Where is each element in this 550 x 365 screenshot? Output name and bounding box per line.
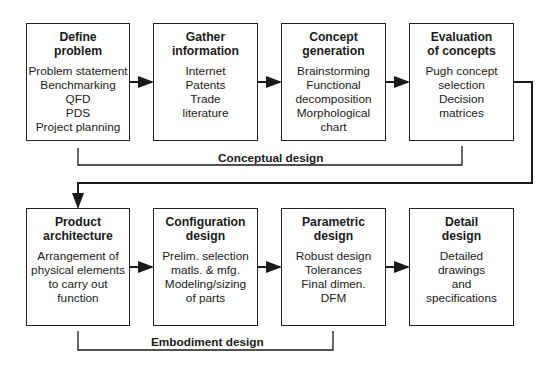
box-title: Detail xyxy=(410,215,513,229)
box-item: Functional xyxy=(282,78,385,92)
box-item: Modeling/sizing xyxy=(154,277,257,291)
gather-information-box: Gatherinformation Internet Patents Trade… xyxy=(153,23,258,141)
box-item: Brainstorming xyxy=(282,64,385,78)
box-item: drawings xyxy=(410,263,513,277)
box-title: Evaluation xyxy=(410,30,513,44)
box-title: design xyxy=(154,229,257,243)
box-title: Parametric xyxy=(282,215,385,229)
box-item: Prelim. selection xyxy=(154,249,257,263)
box-item: and xyxy=(410,277,513,291)
box-item: Pugh concept xyxy=(410,64,513,78)
box-item: literature xyxy=(154,106,257,120)
box-item: to carry out xyxy=(27,277,129,291)
box-item: physical elements xyxy=(27,263,129,277)
box-title: Gather xyxy=(154,30,257,44)
parametric-design-box: Parametricdesign Robust design Tolerance… xyxy=(281,208,386,326)
box-item: Patents xyxy=(154,78,257,92)
box-item: Arrangement of xyxy=(27,249,129,263)
define-problem-box: Defineproblem Problem statement Benchmar… xyxy=(26,23,130,141)
box-item: Trade xyxy=(154,92,257,106)
configuration-design-box: Configurationdesign Prelim. selection ma… xyxy=(153,208,258,326)
box-item: PDS xyxy=(27,106,129,120)
box-title: information xyxy=(154,44,257,58)
box-title: design xyxy=(410,229,513,243)
box-title: of concepts xyxy=(410,44,513,58)
box-title: Define xyxy=(27,30,129,44)
detail-design-box: Detaildesign Detailed drawings and speci… xyxy=(409,208,514,326)
concept-generation-box: Conceptgeneration Brainstorming Function… xyxy=(281,23,386,141)
box-item: Problem statement xyxy=(27,64,129,78)
box-item: chart xyxy=(282,120,385,134)
box-item: decomposition xyxy=(282,92,385,106)
box-item: Decision xyxy=(410,92,513,106)
evaluation-of-concepts-box: Evaluationof concepts Pugh concept selec… xyxy=(409,23,514,141)
box-title: problem xyxy=(27,44,129,58)
box-item: specifications xyxy=(410,291,513,305)
box-item: selection xyxy=(410,78,513,92)
conceptual-design-label: Conceptual design xyxy=(218,151,324,165)
box-item: Internet xyxy=(154,64,257,78)
embodiment-design-label: Embodiment design xyxy=(151,335,264,349)
box-item: DFM xyxy=(282,291,385,305)
box-item: QFD xyxy=(27,92,129,106)
box-item: Morphological xyxy=(282,106,385,120)
box-item: function xyxy=(27,291,129,305)
box-item: Benchmarking xyxy=(27,78,129,92)
box-item: matrices xyxy=(410,106,513,120)
box-title: generation xyxy=(282,44,385,58)
box-title: architecture xyxy=(27,229,129,243)
box-title: Product xyxy=(27,215,129,229)
product-architecture-box: Productarchitecture Arrangement of physi… xyxy=(26,208,130,326)
box-item: Tolerances xyxy=(282,263,385,277)
box-item: Robust design xyxy=(282,249,385,263)
box-item: Detailed xyxy=(410,249,513,263)
box-item: Final dimen. xyxy=(282,277,385,291)
box-title: Concept xyxy=(282,30,385,44)
box-item: of parts xyxy=(154,291,257,305)
box-item: Project planning xyxy=(27,120,129,134)
box-item: matls. & mfg. xyxy=(154,263,257,277)
box-title: design xyxy=(282,229,385,243)
box-title: Configuration xyxy=(154,215,257,229)
